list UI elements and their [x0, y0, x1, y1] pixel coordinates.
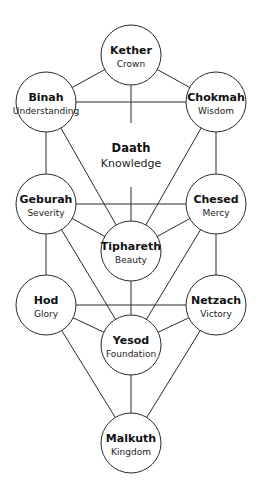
node-daath: Daath Knowledge [101, 141, 162, 170]
node-meaning: Severity [27, 208, 65, 218]
node-name: Malkuth [106, 432, 156, 445]
node-meaning: Understanding [13, 106, 79, 116]
daath-name: Daath [112, 141, 151, 155]
node-geburah: Geburah Severity [16, 174, 76, 234]
node-name: Kether [110, 44, 152, 57]
node-yesod: Yesod Foundation [101, 315, 161, 375]
node-name: Netzach [191, 294, 241, 307]
tree-of-life-diagram: Kether Crown Binah Understanding Chokmah… [0, 0, 260, 487]
node-binah: Binah Understanding [13, 72, 79, 132]
node-name: Chokmah [187, 91, 245, 104]
node-chokmah: Chokmah Wisdom [186, 72, 246, 132]
node-meaning: Glory [34, 309, 59, 319]
node-meaning: Beauty [115, 255, 147, 265]
node-name: Binah [28, 91, 63, 104]
node-meaning: Victory [200, 309, 232, 319]
node-hod: Hod Glory [16, 275, 76, 335]
daath-meaning: Knowledge [101, 157, 162, 170]
node-kether: Kether Crown [101, 25, 161, 85]
node-name: Tiphareth [101, 240, 161, 253]
node-meaning: Mercy [202, 208, 230, 218]
node-meaning: Crown [117, 59, 145, 69]
node-meaning: Kingdom [111, 447, 151, 457]
node-chesed: Chesed Mercy [186, 174, 246, 234]
node-name: Yesod [112, 334, 149, 347]
node-meaning: Foundation [106, 349, 156, 359]
node-meaning: Wisdom [198, 106, 234, 116]
node-malkuth: Malkuth Kingdom [101, 413, 161, 473]
node-netzach: Netzach Victory [186, 275, 246, 335]
node-tiphareth: Tiphareth Beauty [101, 221, 161, 281]
node-name: Hod [34, 294, 59, 307]
node-name: Chesed [193, 193, 238, 206]
sephiroth-nodes: Kether Crown Binah Understanding Chokmah… [13, 25, 246, 473]
node-name: Geburah [20, 193, 73, 206]
